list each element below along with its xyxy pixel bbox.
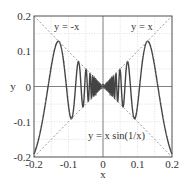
annotation-y-x: y = x	[131, 21, 153, 32]
annotation-x-sin: y = x sin(1/x)	[88, 130, 145, 142]
x-tick-label: 0.2	[165, 158, 179, 170]
x-tick-label: 0.1	[131, 158, 145, 170]
annotation-y-neg-x: y = -x	[54, 21, 80, 32]
x-axis-label: x	[100, 168, 106, 180]
y-tick-label: 0.2	[17, 10, 31, 22]
x-tick-label: -0.1	[60, 158, 77, 170]
y-tick-label: 0	[26, 81, 32, 93]
y-tick-label: 0.1	[17, 45, 31, 57]
y-tick-label: -0.1	[14, 116, 31, 128]
chart: -0.2-0.100.10.20.20.10-0.1-0.2 x y y = -…	[0, 0, 185, 191]
y-axis-label: y	[10, 80, 16, 92]
y-tick-label: -0.2	[14, 151, 31, 163]
